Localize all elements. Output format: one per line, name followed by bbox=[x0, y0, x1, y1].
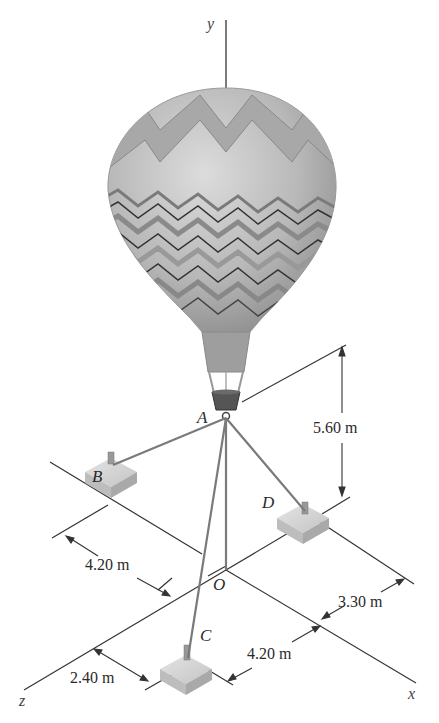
y-axis-label: y bbox=[207, 16, 214, 32]
dim-D-offset: 3.30 m bbox=[338, 594, 382, 610]
cable-AB bbox=[113, 418, 226, 465]
point-D-label: D bbox=[262, 494, 274, 511]
anchor-block-C bbox=[160, 645, 212, 695]
x-axis bbox=[226, 570, 416, 683]
dim-C-z-offset: 2.40 m bbox=[70, 670, 114, 686]
cable-AC bbox=[188, 418, 226, 658]
dim-B-offset: 4.20 m bbox=[85, 557, 129, 573]
point-C-label: C bbox=[200, 627, 211, 644]
z-axis-label: z bbox=[19, 693, 25, 709]
x-axis-label: x bbox=[408, 686, 415, 702]
balloon-basket bbox=[209, 372, 243, 420]
dim-C-x-offset: 4.20 m bbox=[247, 646, 291, 662]
balloon-envelope bbox=[100, 88, 345, 372]
point-B-label: B bbox=[92, 468, 102, 485]
origin-O-label: O bbox=[213, 576, 225, 593]
cables bbox=[113, 418, 305, 658]
point-A-label: A bbox=[197, 409, 207, 426]
balloon-diagram bbox=[0, 0, 439, 723]
dim-height-A: 5.60 m bbox=[313, 420, 357, 436]
